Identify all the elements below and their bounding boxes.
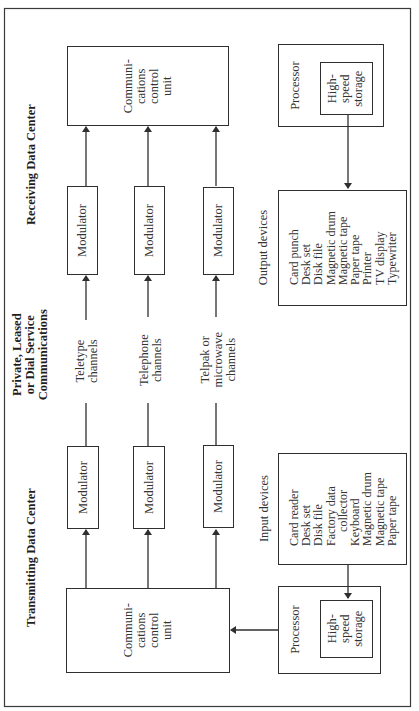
transmitting-modulator-1-label: Modulator (67, 446, 99, 529)
comm-heading-line-1: Private, Leased (10, 310, 23, 401)
input-devices-list: Card reader Desk set Disk file Factory d… (278, 453, 407, 565)
output-device-item: Disk file (312, 211, 324, 285)
receiving-storage-label: High- speed storage (320, 62, 373, 115)
comm-heading-line-3: Communications (37, 310, 50, 401)
input-device-item: Paper tape (385, 472, 397, 546)
output-devices-list: Card punch Desk set Disk file Magnetic d… (278, 190, 407, 306)
receiving-processor-label: Processor (280, 44, 310, 127)
transmitting-modulator-2-label: Modulator (133, 446, 165, 529)
output-device-item: TV display (373, 211, 385, 285)
channel-teletype: Teletype channels (70, 320, 104, 402)
channel-telpak-microwave: Telpak or microwave channels (196, 317, 242, 403)
transmitting-modulator-3-label: Modulator (203, 445, 234, 528)
transmitting-heading: Transmitting Data Center (14, 480, 48, 635)
receiving-modulator-1-label: Modulator (67, 186, 98, 275)
output-devices-title: Output devices (252, 190, 276, 306)
comm-heading-line-2: or Dial Service (23, 310, 36, 401)
input-device-item: Magnetic tape (373, 472, 385, 546)
input-device-item: Magnetic drum (361, 472, 373, 546)
input-devices-title: Input devices (252, 453, 276, 565)
output-device-item: Card punch (287, 211, 299, 285)
receiving-heading: Receiving Data Center (14, 95, 48, 235)
input-device-item: collector (336, 472, 348, 546)
receiving-modulator-2-label: Modulator (134, 186, 165, 275)
output-device-item: Printer (361, 211, 373, 285)
input-device-item: Desk set (300, 472, 312, 546)
data-communications-diagram: Receiving Data Center Private, Leased or… (0, 0, 419, 711)
communications-heading: Private, Leased or Dial Service Communic… (8, 305, 52, 405)
output-device-item: Desk set (300, 211, 312, 285)
transmitting-processor-label: Processor (280, 586, 310, 674)
input-device-item: Keyboard (349, 472, 361, 546)
input-device-item: Disk file (312, 472, 324, 546)
output-device-item: Magnetic drum (324, 211, 336, 285)
input-device-item: Factory data (324, 472, 336, 546)
transmitting-storage-label: High- speed storage (320, 600, 373, 658)
output-device-item: Paper tape (349, 211, 361, 285)
output-device-item: Magnetic tape (336, 211, 348, 285)
input-device-item: Card reader (287, 472, 299, 546)
channel-telephone: Telephone channels (134, 317, 168, 403)
receiving-modulator-3-label: Modulator (203, 187, 234, 275)
receiving-ccu-label: Communi- cations control unit (67, 46, 229, 126)
transmitting-ccu-label: Communi- cations control unit (66, 588, 230, 673)
output-device-item: Typewriter (385, 211, 397, 285)
